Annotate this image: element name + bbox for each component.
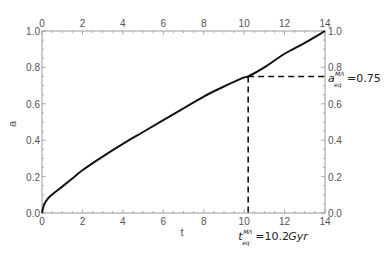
a-eq-superscript: MΛ (335, 70, 344, 77)
minor-ticks (42, 31, 325, 213)
x-tick-labels-bottom: 02468101214 (39, 216, 331, 227)
x-tick-label: 2 (80, 216, 86, 227)
t-eq-value: =10.2 (255, 230, 289, 243)
x-tick-label: 0 (39, 216, 45, 227)
y-tick-label-right: 0.2 (328, 172, 342, 183)
y-tick-label-right: 0.6 (328, 99, 342, 110)
y-tick-label: 1.0 (26, 26, 40, 37)
y-tick-label: 0.2 (26, 172, 40, 183)
x-tick-label: 4 (120, 216, 126, 227)
frame-rect (42, 31, 325, 213)
a-eq-subscript: eq (334, 81, 342, 89)
x-tick-label-top: 8 (201, 18, 207, 29)
x-tick-label-top: 6 (161, 18, 167, 29)
x-tick-label-top: 12 (279, 18, 291, 29)
equality-marker-lines (248, 77, 325, 214)
y-tick-label: 0.8 (26, 62, 40, 73)
a-eq-annotation: aMΛeq=0.75 (328, 70, 381, 89)
y-tick-label-right: 0.4 (328, 135, 342, 146)
x-tick-label-top: 4 (120, 18, 126, 29)
t-eq-superscript: MΛ (243, 228, 252, 235)
y-tick-label: 0.4 (26, 135, 40, 146)
major-ticks (42, 31, 325, 213)
chart: 02468101214 02468101214 0.00.20.40.60.81… (0, 0, 384, 253)
y-tick-label-right: 1.0 (328, 26, 342, 37)
x-tick-label: 8 (201, 216, 207, 227)
x-tick-label-top: 10 (239, 18, 251, 29)
x-tick-label: 10 (239, 216, 251, 227)
y-tick-label: 0.6 (26, 99, 40, 110)
x-axis-label: t (180, 226, 183, 238)
y-tick-label-right: 0.0 (328, 208, 342, 219)
x-tick-labels-top: 02468101214 (39, 18, 331, 29)
plot-frame (42, 31, 325, 213)
x-tick-label: 12 (279, 216, 291, 227)
a-eq-value: =0.75 (347, 72, 381, 85)
y-axis-label: a (6, 120, 18, 127)
scale-factor-curve (42, 31, 325, 213)
x-tick-label-top: 2 (80, 18, 86, 29)
x-tick-label: 6 (161, 216, 167, 227)
y-tick-label: 0.0 (26, 208, 40, 219)
t-eq-unit: Gyr (288, 230, 309, 243)
t-eq-annotation: tMΛeq=10.2Gyr (238, 228, 309, 247)
y-tick-labels-right: 0.00.20.40.60.81.0 (328, 26, 342, 219)
x-tick-label-top: 0 (39, 18, 45, 29)
t-eq-subscript: eq (242, 239, 250, 247)
y-tick-labels-left: 0.00.20.40.60.81.0 (26, 26, 40, 219)
